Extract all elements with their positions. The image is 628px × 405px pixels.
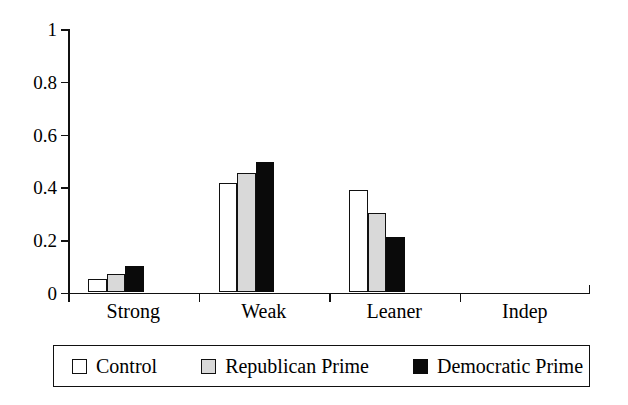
bar-leaner-democratic-prime xyxy=(386,237,405,292)
bar-strong-republican-prime xyxy=(107,274,126,292)
bar-weak-republican-prime xyxy=(237,173,256,293)
legend-label-control: Control xyxy=(96,356,157,376)
bar-strong-democratic-prime xyxy=(125,266,144,292)
bar-strong-control xyxy=(88,279,107,292)
bar-weak-democratic-prime xyxy=(256,162,275,292)
bar-chart: 1 0.8 0.6 0.4 0.2 0 xyxy=(0,0,628,405)
bar-weak-control xyxy=(219,183,238,292)
black-square-icon xyxy=(413,359,428,374)
gray-square-icon xyxy=(201,359,216,374)
legend-item-democratic-prime: Democratic Prime xyxy=(413,356,583,376)
legend-label-democratic-prime: Democratic Prime xyxy=(437,356,583,376)
bar-leaner-republican-prime xyxy=(368,213,387,292)
legend-item-republican-prime: Republican Prime xyxy=(201,356,369,376)
plot-area: 1 0.8 0.6 0.4 0.2 0 xyxy=(0,0,628,340)
legend-item-control: Control xyxy=(72,356,157,376)
x-axis-label-indep: Indep xyxy=(460,300,591,322)
bars-layer xyxy=(0,0,628,293)
x-axis-label-weak: Weak xyxy=(199,300,330,322)
x-axis-label-leaner: Leaner xyxy=(329,300,460,322)
white-square-icon xyxy=(72,359,87,374)
x-axis-label-strong: Strong xyxy=(68,300,199,322)
legend: Control Republican Prime Democratic Prim… xyxy=(53,345,590,387)
bar-leaner-control xyxy=(349,190,368,293)
legend-label-republican-prime: Republican Prime xyxy=(225,356,369,376)
